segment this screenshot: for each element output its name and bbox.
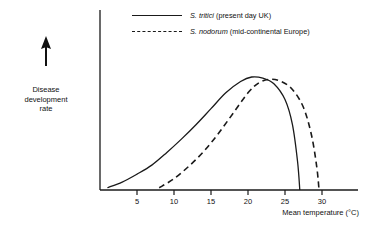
x-axis-tick-label: 20 (238, 197, 258, 206)
x-axis-tick-label: 5 (127, 197, 147, 206)
data-curve (107, 77, 299, 190)
x-axis-title: Mean temperature (°C) (282, 208, 359, 217)
x-axis-tick-label: 25 (275, 197, 295, 206)
x-axis-ticks (137, 190, 322, 195)
plot-area (0, 0, 365, 228)
x-axis-tick-label: 15 (201, 197, 221, 206)
x-axis-tick-label: 30 (312, 197, 332, 206)
axes (100, 10, 358, 190)
data-curves (107, 77, 319, 190)
data-curve (159, 79, 319, 190)
chart-figure: Disease development rate S. tritici (pre… (0, 0, 365, 228)
x-axis-tick-label: 10 (164, 197, 184, 206)
